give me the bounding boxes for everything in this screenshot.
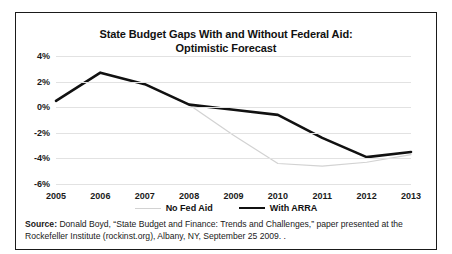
x-axis-tick-label: 2012 (357, 191, 377, 201)
chart-title-line-2: Optimistic Forecast (16, 41, 436, 55)
x-axis-tick-label: 2007 (135, 191, 155, 201)
x-axis-tick-label: 2005 (46, 191, 66, 201)
x-axis-tick-label: 2008 (179, 191, 199, 201)
x-axis-tick-label: 2011 (312, 191, 332, 201)
y-axis-tick-label: -6% (34, 179, 50, 189)
y-axis-tick-label: 0% (37, 102, 50, 112)
chart-legend: No Fed AidWith ARRA (16, 203, 436, 213)
legend-swatch (239, 207, 265, 209)
gridline (56, 158, 411, 159)
legend-entry: No Fed Aid (135, 203, 213, 213)
plot-area: 4%2%0%-2%-4%-6%2005200620072008200920102… (56, 56, 411, 184)
series-line (56, 73, 411, 157)
y-axis-tick-label: 2% (37, 77, 50, 87)
gridline (56, 133, 411, 134)
series-layer (56, 56, 411, 184)
legend-label: With ARRA (270, 203, 318, 213)
source-text: Donald Boyd, “State Budget and Finance: … (25, 219, 403, 241)
x-axis-tick-label: 2010 (268, 191, 288, 201)
legend-label: No Fed Aid (166, 203, 213, 213)
legend-entry: With ARRA (239, 203, 318, 213)
x-axis-tick-label: 2006 (90, 191, 110, 201)
gridline (56, 184, 411, 185)
x-axis-tick-label: 2013 (401, 191, 421, 201)
legend-swatch (135, 208, 161, 209)
gridline (56, 107, 411, 108)
source-label: Source: (25, 219, 57, 229)
y-axis-tick-label: -2% (34, 128, 50, 138)
y-axis-tick-label: 4% (37, 51, 50, 61)
chart-title-line-1: State Budget Gaps With and Without Feder… (16, 27, 436, 41)
gridline (56, 56, 411, 57)
chart-title: State Budget Gaps With and Without Feder… (16, 27, 436, 55)
figure-panel: State Budget Gaps With and Without Feder… (15, 12, 437, 250)
source-note: Source: Donald Boyd, “State Budget and F… (25, 219, 427, 242)
y-axis-tick-label: -4% (34, 153, 50, 163)
x-axis-tick-label: 2009 (223, 191, 243, 201)
gridline (56, 82, 411, 83)
